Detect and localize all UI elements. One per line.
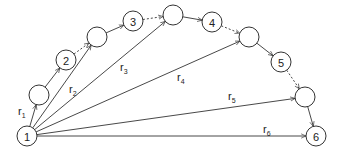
node-label: 6: [313, 131, 319, 143]
nodes-layer: 123456: [17, 5, 326, 146]
node-6-circle: 6: [306, 126, 326, 146]
edge-n1-to-e-arrow: [37, 98, 295, 134]
edge-a-to-n2-arrow: [45, 68, 60, 87]
node-label: 4: [209, 17, 215, 29]
node-3-circle: 3: [123, 11, 143, 31]
node-label: 2: [63, 55, 69, 67]
radius-label-r1: r1: [18, 105, 26, 119]
edge-c-to-n4-arrow: [183, 17, 202, 20]
node-d-circle: [239, 27, 259, 47]
node-5-circle: 5: [271, 52, 291, 72]
radius-label-r2: r2: [69, 83, 77, 97]
node-a-circle: [29, 85, 49, 105]
edge-n3-to-c-arrow: [143, 17, 163, 20]
radius-label-r3: r3: [120, 61, 128, 75]
edges-layer: [30, 17, 314, 137]
edge-e-to-n6-arrow: [308, 107, 314, 127]
edge-n5-to-e-arrow: [287, 70, 300, 89]
edge-n2-to-b-arrow: [74, 43, 89, 54]
node-4-circle: 4: [202, 12, 222, 32]
edge-b-to-n3-arrow: [106, 25, 124, 33]
chain-radius-diagram: 123456 r1r2r3r4r5r6: [0, 0, 343, 153]
node-label: 5: [278, 57, 284, 69]
radius-label-r6: r6: [263, 123, 271, 137]
radius-label-r4: r4: [177, 71, 185, 85]
node-b-circle: [87, 27, 107, 47]
node-e-circle: [295, 87, 315, 107]
node-label: 1: [24, 131, 30, 143]
radius-label-r5: r5: [228, 90, 236, 104]
node-label: 3: [130, 16, 136, 28]
node-c-circle: [163, 5, 183, 25]
node-1-circle: 1: [17, 126, 37, 146]
edge-n4-to-d-arrow: [221, 26, 239, 33]
node-2-circle: 2: [56, 50, 76, 70]
edge-n1-to-a-arrow: [30, 105, 36, 127]
edge-d-to-n5-arrow: [257, 43, 273, 56]
